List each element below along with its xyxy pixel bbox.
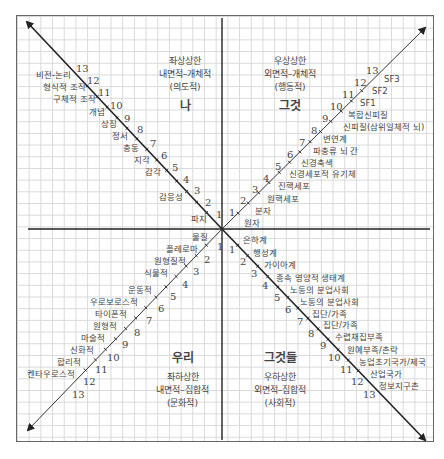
tick-number: 9 [122,340,128,350]
stage-label: 합리적 [57,357,81,367]
tick-number: 6 [285,305,291,315]
tick-number: 10 [107,353,120,363]
quadrant-upper-left: 좌상상한 내면적–개체적 (의도적) 나 [140,55,230,113]
tick-number: 13 [366,66,379,76]
quadrant-subtitle: 내면적–집합적 [140,384,225,397]
tick-number: 8 [311,126,317,136]
quadrant-type: (사회적) [240,397,320,410]
stage-label: 신화적 [70,345,94,355]
stage-label: SF3 [384,74,400,84]
stage-label: 가이아계 [264,260,296,270]
tick-number: 2 [240,257,246,267]
tick-number: 11 [340,365,353,375]
tick-number: 6 [287,150,293,160]
upper-left-diagonal-arrow [27,22,222,229]
stage-label: 형식적 조작 [43,82,86,92]
stage-label: 원자 [244,218,260,228]
quadrant-subtitle: 외면적–개체적 [250,68,330,81]
stage-label: 비전-논리 [36,70,71,80]
quadrant-upper-right: 우상상한 외면적–개체적 (행동적) 그것 [250,55,330,113]
stage-label: 정서 [112,131,128,141]
tick-number: 11 [342,90,355,100]
tick-number: 4 [182,280,188,290]
tick-number: 4 [263,174,269,184]
tick-number: 7 [297,317,303,327]
stage-label: 신경축색 [301,158,333,168]
tick-number: 1 [229,245,235,255]
tick-number: 11 [95,365,108,375]
tick-number: 6 [161,151,167,161]
stage-label: 산업국가 [370,369,402,379]
tick-number: 5 [172,163,178,173]
quadrant-title: 좌상상한 [140,55,230,68]
stage-label: 물질 [192,232,208,242]
stage-label: SF2 [372,86,388,96]
quadrant-pronoun: 그것들 [240,352,320,365]
stage-label: 파충류 뇌 간 [313,146,358,156]
tick-number: 3 [252,185,258,195]
stage-label: SF1 [360,98,376,108]
stage-label: 수렵채집부족 [335,332,383,342]
stage-label: 감각 [145,167,161,177]
tick-number: 5 [170,292,176,302]
stage-label: 마술적 [81,333,105,343]
stage-label: 행성계 [253,248,277,258]
stage-label: 개념 [89,107,105,117]
tick-number: 5 [275,162,281,172]
stage-label: 상징 [101,119,117,129]
stage-label: 신피질(삼위일체적 뇌) [343,122,424,132]
quadrant-type: (행동적) [250,81,330,94]
stage-label: 파지 [191,214,207,224]
quadrant-pronoun: 나 [140,100,230,113]
tick-number: 13 [363,390,376,400]
stage-label: 은하계 [243,235,267,245]
tick-number: 1 [229,208,235,218]
stage-label: 신경세포적 유기체 [289,169,356,179]
stage-label: 변연계 [323,134,347,144]
quadrant-type: (의도적) [140,81,230,94]
stage-label: 켄타우로스적 [27,369,75,379]
quadrant-lower-right: 그것들 우하상한 외면적–집합적 (사회적) [240,352,320,410]
tick-number: 11 [98,88,111,98]
tick-number: 2 [240,196,246,206]
quadrant-pronoun: 그것 [250,100,330,113]
tick-number: 6 [158,304,164,314]
quadrant-type: (문화적) [140,397,225,410]
stage-label: 정보지구촌 [379,381,419,391]
quadrant-title: 우하상한 [240,371,320,384]
tick-number: 4 [183,175,189,185]
tick-number: 12 [87,76,100,86]
tick-number: 7 [146,316,152,326]
tick-number: 13 [72,390,85,400]
tick-number: 2 [205,198,211,208]
quadrant-title: 우상상한 [250,55,330,68]
tick-number: 1 [216,210,222,220]
quadrant-pronoun: 우리 [140,352,225,365]
tick-number: 12 [83,377,96,387]
stage-label: 복합신피질 [348,110,388,120]
stage-label: 원형적 [93,321,117,331]
stage-label: 노동의 분업사회 [290,285,349,295]
quadrant-lower-left: 우리 좌하상한 내면적–집합적 (문화적) [140,352,225,410]
stage-label: 플레로마 [166,244,198,254]
stage-label: 충동 [123,143,139,153]
stage-label: 원핵세포 [267,194,299,204]
tick-number: 1 [217,242,223,252]
tick-number: 2 [204,255,210,265]
stage-label: 노동의 분업사회 [300,297,359,307]
quadrant-subtitle: 외면적–집합적 [240,384,320,397]
tick-number: 5 [274,293,280,303]
stage-label: 우로보로스적 [90,297,138,307]
tick-number: 10 [110,101,123,111]
tick-number: 8 [134,328,140,338]
tick-number: 10 [330,102,343,112]
stage-label: 감응성 [159,192,183,202]
tick-number: 13 [76,64,89,74]
stage-label: 집단/가족 [312,309,347,319]
tick-number: 8 [308,329,314,339]
stage-label: 집단/가족 [323,320,358,330]
tick-number: 7 [150,139,156,149]
tick-number: 8 [137,125,143,135]
tick-number: 12 [351,377,364,387]
stage-label: 타이폰적 [95,309,127,319]
